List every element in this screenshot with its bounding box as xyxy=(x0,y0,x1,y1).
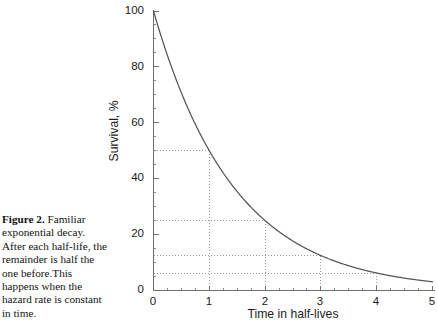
ytick-label-20: 20 xyxy=(114,227,144,239)
xtick-label-4: 4 xyxy=(364,295,388,307)
xtick-label-0: 0 xyxy=(141,295,165,307)
xtick-label-5: 5 xyxy=(420,295,437,307)
x-axis-title: Time in half-lives xyxy=(193,307,393,321)
xtick-label-1: 1 xyxy=(197,295,221,307)
xtick-label-3: 3 xyxy=(308,295,332,307)
ytick-label-100: 100 xyxy=(114,4,144,16)
xtick-label-2: 2 xyxy=(253,295,277,307)
ytick-label-80: 80 xyxy=(114,60,144,72)
decay-curve-group xyxy=(154,11,433,282)
decay-curve xyxy=(154,11,433,282)
chart-plot-area xyxy=(0,0,437,326)
ytick-label-0: 0 xyxy=(114,283,144,295)
y-axis-title: Survival, % xyxy=(107,81,121,181)
exponential-decay-chart: 100 80 60 40 20 0 0 1 2 3 4 5 Time in ha… xyxy=(0,0,437,326)
